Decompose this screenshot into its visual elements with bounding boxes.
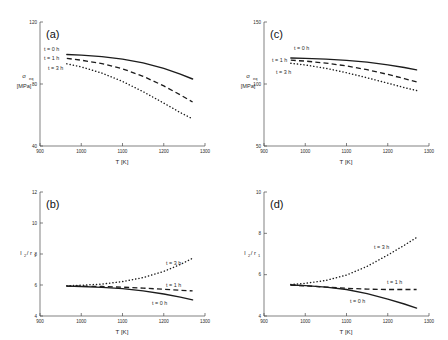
panel-b-series-0-label: t = 0 h xyxy=(152,300,167,306)
panel-b-ylabel-slash: / xyxy=(27,250,29,256)
panel-d-xlabel: T [K] xyxy=(340,328,353,335)
panel-d: (d) 4 6 8 10 900 1000 1100 1200 1300 T [… xyxy=(224,170,448,340)
panel-a-ytick-label-1: 80 xyxy=(32,82,38,87)
panel-a-series-0-label: t = 0 h xyxy=(44,46,59,52)
panel-a-ylabel-symbol: σ xyxy=(22,73,26,79)
panel-c-xtick-label-4: 1300 xyxy=(424,149,435,154)
panel-b-plot: (b) 4 6 8 10 12 900 1000 1100 1200 1300 … xyxy=(0,170,224,340)
panel-d-plot: (d) 4 6 8 10 900 1000 1100 1200 1300 T [… xyxy=(224,170,448,340)
panel-b-ytick-label-1: 6 xyxy=(34,283,37,288)
panel-c-label: (c) xyxy=(270,28,283,40)
panel-d-ylabel-denominator: r xyxy=(254,250,256,256)
panel-a-series-1-label: t = 1 h xyxy=(44,55,59,61)
panel-b-series-0-curve xyxy=(67,286,193,300)
panel-c-xtick-label-1: 1000 xyxy=(300,149,311,154)
panel-a-xtick-label-2: 1100 xyxy=(118,149,128,154)
panel-b-xtick-label-0: 900 xyxy=(36,319,44,324)
panel-c-ytick-label-0: 50 xyxy=(256,144,262,149)
panel-d-label: (d) xyxy=(270,198,283,210)
panel-a-xlabel: T [K] xyxy=(116,158,129,165)
panel-a-xtick-label-3: 1200 xyxy=(159,149,170,154)
panel-b-series-1-label: t = 1 h xyxy=(166,282,181,288)
panel-b-xlabel: T [K] xyxy=(116,328,129,335)
panel-c-series-0-label: t = 0 h xyxy=(294,45,309,51)
panel-c-series-2-label: t = 3 h xyxy=(276,69,291,75)
panel-a-ytick-label-0: 40 xyxy=(32,144,38,149)
panel-d-series-0-label: t = 0 h xyxy=(350,298,365,304)
panel-c-plot: (c) 50 100 150 900 1000 1100 1200 1300 T… xyxy=(224,0,448,170)
panel-b-xtick-label-2: 1100 xyxy=(118,319,128,324)
panel-d-ytick-label-2: 8 xyxy=(258,231,261,236)
panel-b-ytick-label-4: 12 xyxy=(32,190,38,195)
panel-c-xtick-label-3: 1200 xyxy=(383,149,394,154)
panel-b-label: (b) xyxy=(46,198,59,210)
panel-d-series-0-curve xyxy=(291,285,417,308)
panel-b-ylabel-numerator: l xyxy=(20,250,21,256)
figure-root: (a) 40 80 120 900 1000 1100 1200 1300 T … xyxy=(0,0,448,340)
panel-c-series-1-label: t = 1 h xyxy=(272,57,287,63)
panel-d-ytick-label-3: 10 xyxy=(256,190,262,195)
panel-d-series-2-label: t = 3 h xyxy=(374,244,389,250)
panel-d-xtick-label-1: 1000 xyxy=(300,319,311,324)
panel-d-xtick-label-3: 1200 xyxy=(383,319,394,324)
panel-d-series-1-curve xyxy=(291,285,417,290)
panel-a-ylabel-subscript: eq xyxy=(29,76,33,81)
panel-b-ytick-label-3: 10 xyxy=(32,221,38,226)
panel-c-ylabel-symbol: σ xyxy=(246,73,250,79)
panel-b-ytick-label-0: 4 xyxy=(34,314,37,319)
panel-a-label: (a) xyxy=(46,28,59,40)
panel-c: (c) 50 100 150 900 1000 1100 1200 1300 T… xyxy=(224,0,448,170)
panel-a-ylabel-unit: [MPa] xyxy=(17,83,32,89)
panel-d-ytick-label-0: 4 xyxy=(258,314,261,319)
panel-b-ylabel-denominator-subscript: 1 xyxy=(34,253,36,258)
panel-c-series-1-curve xyxy=(291,60,417,82)
panel-c-ytick-label-2: 150 xyxy=(253,20,261,25)
panel-c-xlabel: T [K] xyxy=(340,158,353,165)
panel-d-series-2-curve xyxy=(291,237,417,284)
panel-a-series-1-curve xyxy=(67,58,193,102)
panel-d-ytick-label-1: 6 xyxy=(258,272,261,277)
panel-d-ylabel-denominator-subscript: 1 xyxy=(258,253,260,258)
panel-d-ylabel-slash: / xyxy=(251,250,253,256)
panel-d-xtick-label-0: 900 xyxy=(260,319,268,324)
panel-a-ytick-label-2: 120 xyxy=(29,20,37,25)
panel-a-plot: (a) 40 80 120 900 1000 1100 1200 1300 T … xyxy=(0,0,224,170)
panel-b-xtick-label-4: 1300 xyxy=(200,319,211,324)
panel-a-series-2-label: t = 3 h xyxy=(48,65,63,71)
panel-a-xtick-label-0: 900 xyxy=(36,149,44,154)
panel-d-ylabel-numerator: l xyxy=(244,250,245,256)
panel-a-series-0-curve xyxy=(67,55,193,80)
panel-d-xtick-label-2: 1100 xyxy=(342,319,352,324)
panel-a-xtick-label-1: 1000 xyxy=(76,149,87,154)
panel-a: (a) 40 80 120 900 1000 1100 1200 1300 T … xyxy=(0,0,224,170)
panel-a-xtick-label-4: 1300 xyxy=(200,149,211,154)
panel-c-xtick-label-2: 1100 xyxy=(342,149,352,154)
panel-b-xtick-label-3: 1200 xyxy=(159,319,170,324)
panel-d-series-1-label: t = 1 h xyxy=(387,279,402,285)
panel-c-ylabel-subscript: eq xyxy=(253,76,257,81)
panel-c-xtick-label-0: 900 xyxy=(260,149,268,154)
panel-d-xtick-label-4: 1300 xyxy=(424,319,435,324)
panel-c-series-0-curve xyxy=(291,58,417,70)
panel-c-ylabel-unit: [MPa] xyxy=(241,83,256,89)
panel-b-ylabel-denominator: r xyxy=(30,250,32,256)
panel-b: (b) 4 6 8 10 12 900 1000 1100 1200 1300 … xyxy=(0,170,224,340)
panel-b-series-2-label: t = 3 h xyxy=(166,260,181,266)
panel-b-xtick-label-1: 1000 xyxy=(76,319,87,324)
